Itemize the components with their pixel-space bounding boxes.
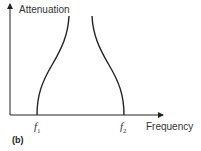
lower-cutoff-curve bbox=[37, 16, 69, 115]
y-axis-label: Attenuation bbox=[19, 5, 70, 15]
marker-f1: f1 bbox=[34, 121, 41, 135]
panel-label: (b) bbox=[12, 136, 24, 145]
upper-cutoff-curve bbox=[92, 16, 124, 115]
marker-f2: f2 bbox=[120, 121, 127, 135]
x-axis-label: Frequency bbox=[146, 122, 193, 132]
